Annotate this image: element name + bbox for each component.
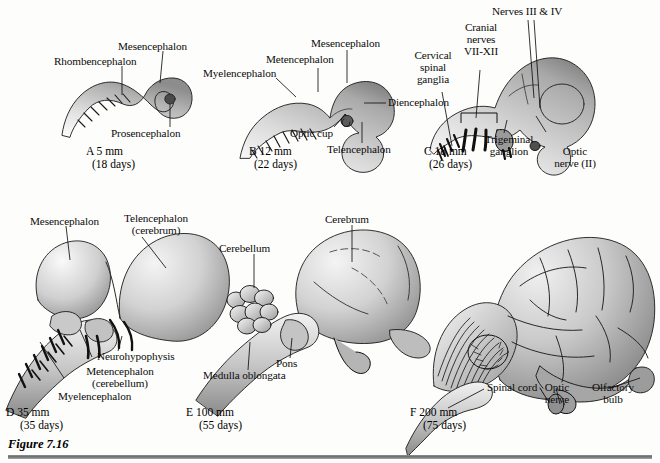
label-myelencephalon-d: Myelencephalon [58,391,131,403]
leader-myelencephalon-d [40,342,64,378]
label-olfactory-bulb-f: Olfactory bulb [583,382,643,406]
panel-caption-b-line1: B 12 mm [249,145,292,158]
leader-optic-cup-b [334,114,346,127]
bracket-cranial-nerves-c [461,113,497,123]
label-line-2: (cerebellum) [72,378,168,390]
panel-caption-c-line1: C 18 mm [424,145,467,158]
leader-mesencephalon-d [66,226,70,260]
panel-caption-c-line2: (26 days) [429,158,472,171]
leader-nerves-iii-iv-c [528,20,534,98]
label-medulla-oblongata-e: Medulla oblongata [203,370,286,382]
panel-caption-e-line2: (55 days) [199,419,242,432]
panel-caption-a-line1: A 5 mm [86,145,123,158]
label-line-2: ganglion [478,146,540,158]
label-rhombencephalon-a: Rhombencephalon [54,56,136,68]
figure-rule [8,455,652,459]
label-line-2: spinal [403,62,463,74]
label-line-2: bulb [583,394,643,406]
label-metencephalon-b: Metencephalon [266,54,334,66]
label-neurohypophysis-d: Neurohypophysis [97,351,174,363]
leader-mesencephalon-a [160,51,163,83]
label-cerebrum-e: Cerebrum [325,214,369,226]
leader-medulla-e [248,342,250,370]
label-spinal-cord-f: Spinal cord [487,382,537,394]
label-line-2: nerve [536,394,578,406]
label-line-3: ganglia [403,74,463,86]
label-mesencephalon-b: Mesencephalon [311,38,380,50]
label-line-2: nerves [452,34,510,46]
label-diencephalon-b: Diencephalon [388,97,449,109]
label-metencephalon-d: Metencephalon (cerebellum) [72,366,168,390]
leader-pons-e [290,338,292,358]
label-myelencephalon-b: Myelencephalon [203,68,276,80]
panel-caption-a-line2: (18 days) [92,158,135,171]
panel-caption-d-line2: (35 days) [20,419,63,432]
label-trigeminal-ganglion-c: Trigeminal ganglion [478,134,540,158]
panel-caption-e-line1: E 100 mm [186,406,234,419]
panel-caption-d-line1: D 35 mm [6,406,49,419]
label-telencephalon-b: Telencephalon [327,144,391,156]
leader-nerves-iii-iv-c2 [534,20,540,108]
leader-cranial-nerves-c [476,70,480,118]
label-telencephalon-d: Telencephalon (cerebrum) [112,213,200,237]
label-prosencephalon-a: Prosencephalon [111,128,180,140]
leader-myelencephalon-b [276,78,296,97]
leader-telencephalon-d [142,237,166,268]
label-cerebellum-e: Cerebellum [219,243,270,255]
label-mesencephalon-d: Mesencephalon [30,216,99,228]
figure-root: Rhombencephalon Mesencephalon Prosenceph… [0,0,660,463]
label-optic-nerve-f: Optic nerve [536,382,578,406]
panel-caption-f-line2: (75 days) [423,419,466,432]
label-mesencephalon-a: Mesencephalon [118,41,187,53]
leader-neurohypophysis-d [118,336,122,351]
figure-caption: Figure 7.16 [8,437,68,452]
label-nerves-iii-iv-c: Nerves III & IV [492,6,562,18]
label-optic-nerve-c: Optic nerve (II) [546,146,604,170]
panel-e-brain-drawing [196,230,430,416]
panel-caption-b-line2: (22 days) [254,158,297,171]
leader-trigeminal-c [504,120,507,133]
label-line-2: nerve (II) [546,158,604,170]
label-line-2: (cerebrum) [112,225,200,237]
label-cranial-nerves-c: Cranial nerves VII-XII [452,22,510,57]
leader-metencephalon-d [80,330,92,357]
leader-optic-nerve-c [536,116,546,132]
panel-caption-f-line1: F 200 mm [410,406,457,419]
label-optic-cup-b: Optic cup [290,128,333,140]
label-line-3: VII-XII [452,46,510,58]
